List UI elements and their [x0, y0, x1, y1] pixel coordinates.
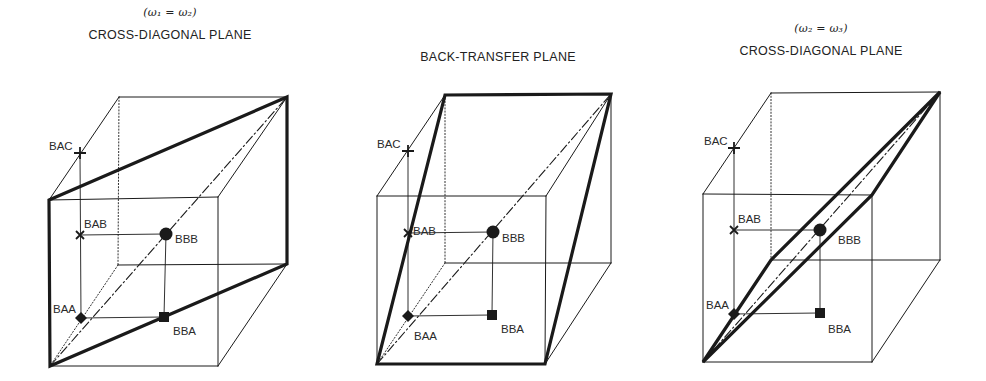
hidden-edge — [118, 97, 119, 265]
point-bac: BAC — [49, 140, 86, 159]
bottom-right-edge — [545, 263, 611, 364]
point-label: BAA — [706, 299, 729, 311]
point-bba: BBA — [815, 308, 851, 335]
point-label: BBB — [175, 233, 198, 245]
point-label: BBA — [173, 325, 196, 337]
top-right-edge — [546, 94, 611, 196]
point-label: BAA — [414, 330, 437, 342]
point-label: BAC — [49, 140, 73, 152]
filled-circle-marker-icon — [814, 224, 827, 237]
front-top-edge — [49, 197, 218, 200]
plus-marker-icon — [402, 145, 414, 157]
point-label: BAB — [738, 213, 761, 225]
point-label: BBA — [501, 323, 524, 335]
point-label: BAC — [704, 135, 728, 147]
front-right-edge — [545, 196, 546, 364]
front-top-edge — [703, 194, 872, 195]
guide-line — [408, 315, 492, 316]
back-top-edge — [771, 92, 940, 93]
filled-circle-marker-icon — [160, 228, 173, 241]
point-label: BBB — [838, 234, 861, 246]
bottom-right-edge — [872, 260, 940, 362]
panel-back-transfer: BACBABBBBBAABBA — [377, 94, 611, 364]
point-bba: BBA — [159, 312, 196, 337]
guide-line — [81, 317, 164, 318]
point-bac: BAC — [377, 138, 414, 157]
guide-line — [80, 234, 166, 235]
cube-diagrams: BACBABBBBBAABBA BACBABBBBBAABBA BACBABBB… — [0, 0, 986, 381]
point-bbb: BBB — [814, 224, 862, 247]
figure: (ω₁ = ω₂) CROSS-DIAGONAL PLANE BACK-TRAN… — [0, 0, 986, 381]
point-label: BBA — [828, 323, 851, 335]
point-label: BAA — [53, 303, 76, 315]
guide-line — [492, 232, 493, 315]
guide-line — [164, 234, 166, 317]
guide-line — [734, 313, 820, 314]
point-bac: BAC — [704, 135, 740, 154]
filled-square-marker-icon — [159, 312, 169, 322]
point-label: BAB — [413, 225, 436, 237]
back-bottom-edge — [118, 264, 287, 265]
filled-square-marker-icon — [815, 308, 825, 318]
point-label: BBB — [502, 232, 525, 244]
panel-cross-diagonal-w1-w2: BACBABBBBBAABBA — [49, 97, 287, 366]
point-baa: BAA — [402, 310, 437, 342]
point-label: BAB — [84, 218, 107, 230]
point-bbb: BBB — [160, 228, 199, 246]
plus-marker-icon — [728, 142, 740, 154]
point-label: BAC — [377, 138, 401, 150]
point-baa: BAA — [706, 299, 740, 320]
point-bab: BAB — [730, 213, 761, 234]
panel-cross-diagonal-w2-w3: BACBABBBBBAABBA — [703, 92, 940, 362]
point-bba: BBA — [487, 310, 524, 335]
filled-square-marker-icon — [487, 310, 497, 320]
point-bbb: BBB — [487, 226, 526, 245]
filled-circle-marker-icon — [487, 226, 500, 239]
point-baa: BAA — [53, 303, 87, 324]
